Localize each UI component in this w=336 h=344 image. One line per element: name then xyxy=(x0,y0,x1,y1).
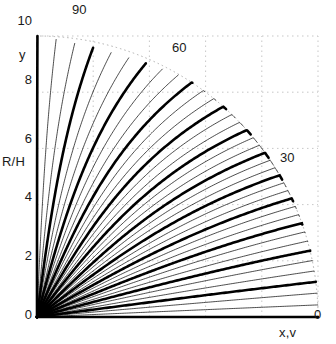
y-tick-label-0: 0 xyxy=(0,307,32,322)
angle-label-60: 60 xyxy=(172,40,186,55)
curve-family xyxy=(37,36,318,317)
plot-canvas xyxy=(0,0,336,344)
angle-label-90: 90 xyxy=(72,2,86,17)
y-tick-label-8: 8 xyxy=(0,72,32,87)
y-tick-label-10: 10 xyxy=(0,13,32,28)
x-axis-name: x,v xyxy=(279,325,296,340)
angle-label-0: 0 xyxy=(314,307,321,322)
y-axis-name: y xyxy=(19,47,26,62)
angle-label-30: 30 xyxy=(280,150,294,165)
y-tick-label-6: 6 xyxy=(0,131,32,146)
y-tick-label-2: 2 xyxy=(0,248,32,263)
chart-figure: 90 60 30 0 10 y 8 6 R/H 4 2 0 x,v xyxy=(0,0,336,344)
r-over-h-label: R/H xyxy=(2,154,25,169)
y-tick-label-4: 4 xyxy=(0,189,32,204)
